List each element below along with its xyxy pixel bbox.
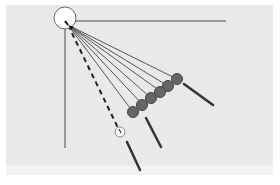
pendulum-arm (68, 25, 133, 112)
motion-sticks (127, 84, 213, 170)
pendulum-arm (68, 25, 151, 98)
pendulum-ball (137, 100, 148, 111)
pivot-point (54, 7, 76, 30)
motion-stick (184, 84, 213, 105)
pendulum-diagram (0, 0, 280, 185)
pendulum-arm (68, 25, 177, 79)
pendulum-ball (172, 74, 183, 85)
pendulum-arms (68, 25, 177, 132)
pivot-circle (54, 7, 76, 29)
pendulum-ball (146, 93, 157, 104)
pendulum-arm (68, 25, 160, 91)
pendulum-arm (68, 25, 142, 104)
motion-stick (127, 142, 140, 170)
motion-stick (146, 118, 161, 147)
pendulum-ball (128, 107, 139, 118)
pendulum-arm (68, 25, 168, 86)
